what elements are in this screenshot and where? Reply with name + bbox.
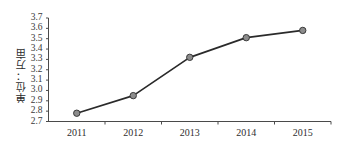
x-tick-label: 2015 [283,128,323,138]
data-point-marker [300,27,306,33]
y-tick-label: 3.7 [23,13,43,23]
line-chart: 单位：万亩 3.73.63.53.43.33.23.13.02.92.82.7 … [0,0,339,154]
x-tick-label: 2013 [170,128,210,138]
data-point-marker [243,34,249,40]
x-tick-label: 2012 [113,128,153,138]
y-tick-label: 3.5 [23,34,43,44]
data-point-marker [187,54,193,60]
y-tick-label: 2.7 [23,117,43,127]
y-tick-label: 3.4 [23,44,43,54]
x-tick-label: 2014 [226,128,266,138]
y-tick-label: 3.3 [23,54,43,64]
y-tick-label: 2.8 [23,106,43,116]
y-tick-label: 2.9 [23,96,43,106]
y-tick-label: 3.2 [23,65,43,75]
y-tick-label: 3.0 [23,85,43,95]
data-point-marker [130,92,136,98]
x-tick-label: 2011 [57,128,97,138]
y-tick-label: 3.1 [23,75,43,85]
y-tick-label: 3.6 [23,23,43,33]
data-series-line [77,30,303,113]
data-point-marker [74,110,80,116]
